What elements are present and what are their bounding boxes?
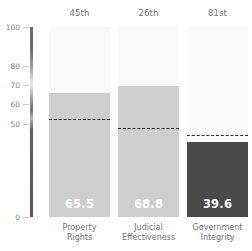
category-label-judicial-effectiveness-line2: Effectiveness (115, 233, 182, 243)
reference-line-government-integrity (187, 135, 248, 136)
rank-label-property-rights: 45th (45, 6, 114, 20)
y-axis-label-50: 50 (0, 121, 20, 129)
category-label-judicial-effectiveness-line1: Judicial (115, 223, 182, 233)
reference-line-judicial-effectiveness (118, 128, 179, 129)
category-label-row: Property Rights Judicial Effectiveness G… (45, 223, 252, 243)
y-axis-tick-0 (23, 217, 29, 218)
category-label-government-integrity: Government Integrity (183, 223, 252, 243)
y-axis-tick-60 (23, 104, 29, 105)
category-label-property-rights: Property Rights (45, 223, 114, 243)
rank-label-row: 45th 26th 81st (45, 6, 252, 20)
y-axis-label-100: 100 (0, 24, 20, 32)
y-axis-spine (30, 27, 33, 217)
category-label-property-rights-line2: Rights (46, 233, 113, 243)
y-axis-tick-100 (23, 27, 29, 28)
reference-line-property-rights (49, 119, 110, 120)
category-label-property-rights-line1: Property (46, 223, 113, 233)
y-axis-label-0: 0 (0, 214, 20, 222)
y-axis-tick-80 (23, 66, 29, 67)
bar-value-judicial-effectiveness: 68.8 (118, 197, 179, 211)
bar-property-rights[interactable]: 65.5 (49, 93, 110, 217)
bar-judicial-effectiveness[interactable]: 68.8 (118, 86, 179, 217)
y-axis-tick-70 (23, 85, 29, 86)
category-label-government-integrity-line1: Government (184, 223, 251, 233)
category-label-government-integrity-line2: Integrity (184, 233, 251, 243)
bar-value-property-rights: 65.5 (49, 197, 110, 211)
y-axis-label-70: 70 (0, 82, 20, 90)
y-axis-tick-50 (23, 124, 29, 125)
bar-chart: 45th 26th 81st 100 80 70 60 50 0 65.5 68… (0, 0, 252, 251)
plot-area: 65.5 68.8 39.6 (45, 27, 252, 217)
category-label-judicial-effectiveness: Judicial Effectiveness (114, 223, 183, 243)
y-axis-label-60: 60 (0, 101, 20, 109)
bar-value-government-integrity: 39.6 (187, 197, 248, 211)
rank-label-government-integrity: 81st (183, 6, 252, 20)
bar-government-integrity[interactable]: 39.6 (187, 142, 248, 217)
rank-label-judicial-effectiveness: 26th (114, 6, 183, 20)
y-axis-label-80: 80 (0, 63, 20, 71)
